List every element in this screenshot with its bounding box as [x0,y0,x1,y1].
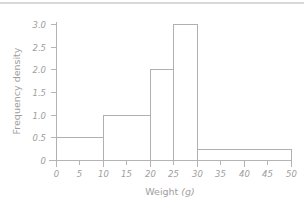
x-tick-label-25: 25 [168,169,179,179]
y-axis-ticks [51,25,57,161]
bar-bin-0-10 [57,138,104,161]
x-axis-title-unit: (g) [181,186,194,197]
x-tick-label-40: 40 [239,169,250,179]
x-tick-label-10: 10 [98,169,109,179]
y-axis-title: Frequency density [11,47,22,134]
x-tick-label-5: 5 [77,169,82,179]
x-tick-label-0: 0 [54,169,59,179]
x-tick-label-50: 50 [286,169,297,179]
x-axis-title: Weight (g) [145,186,195,197]
y-tick-label-3-0: 3.0 [32,20,46,30]
chart-canvas: 3.0 2.5 2.0 1.5 1.0 0.5 0 0 5 10 15 20 2… [0,0,304,201]
y-tick-label-0-5: 0.5 [32,133,46,143]
x-tick-label-35: 35 [215,169,226,179]
x-tick-label-15: 15 [121,169,132,179]
x-tick-label-45: 45 [262,169,273,179]
histogram-bars [57,25,292,161]
y-tick-label-1-0: 1.0 [32,111,46,121]
x-axis-title-text: Weight [145,186,178,197]
bar-bin-30-50 [198,150,292,161]
y-tick-label-2-5: 2.5 [32,43,46,53]
y-tick-label-1-5: 1.5 [32,88,46,98]
y-tick-label-2-0: 2.0 [32,65,46,75]
y-tick-label-0: 0 [41,156,46,166]
bar-bin-20-25 [151,70,174,161]
histogram-figure: 3.0 2.5 2.0 1.5 1.0 0.5 0 0 5 10 15 20 2… [0,0,304,201]
bar-bin-10-20 [104,116,151,161]
bar-bin-25-30 [174,25,198,161]
x-tick-label-30: 30 [192,169,203,179]
x-tick-label-20: 20 [145,169,156,179]
x-axis-ticks [57,161,292,168]
